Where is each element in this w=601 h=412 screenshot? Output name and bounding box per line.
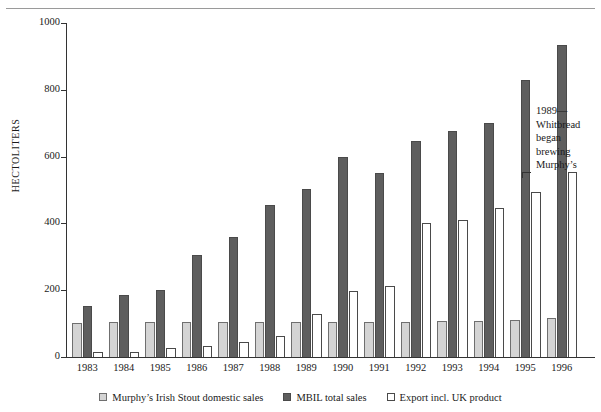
bar-group — [109, 23, 140, 357]
bar-domestic[interactable] — [109, 322, 119, 357]
bar-group — [182, 23, 213, 357]
bar-group — [291, 23, 322, 357]
bar-group — [328, 23, 359, 357]
bar-domestic[interactable] — [291, 322, 301, 357]
x-axis-tick-label: 1990 — [324, 362, 363, 373]
y-axis-tick — [61, 290, 66, 291]
chart-figure: 02004006008001000 HECTOLITERS 1983198419… — [0, 0, 601, 412]
x-axis-tick-label: 1991 — [360, 362, 399, 373]
bar-total[interactable] — [265, 205, 275, 357]
annotation-tick-icon — [522, 172, 531, 173]
y-axis-tick — [61, 23, 66, 24]
chart-legend: Murphy’s Irish Stout domestic salesMBIL … — [0, 388, 601, 406]
bar-group — [218, 23, 249, 357]
annotation-line-1: 1989— — [536, 104, 598, 118]
y-axis-tick-label: 400 — [26, 216, 60, 227]
bar-total[interactable] — [448, 131, 458, 357]
x-axis-tick-labels: 1983198419851986198719881989199019911992… — [66, 362, 566, 380]
bar-total[interactable] — [375, 173, 385, 357]
bar-domestic[interactable] — [364, 322, 374, 357]
bar-domestic[interactable] — [72, 323, 82, 357]
y-axis-tick-label: 200 — [26, 283, 60, 294]
bar-export[interactable] — [385, 286, 395, 357]
x-axis-tick-label: 1989 — [287, 362, 326, 373]
bar-export[interactable] — [203, 346, 213, 357]
bar-export[interactable] — [458, 220, 468, 357]
annotation-line-5: Murphy’s — [536, 158, 598, 172]
x-axis-tick-label: 1986 — [178, 362, 217, 373]
bar-domestic[interactable] — [547, 318, 557, 357]
bar-group — [547, 23, 578, 357]
y-axis-tick — [61, 223, 66, 224]
bar-export[interactable] — [495, 208, 505, 357]
whitbread-annotation: 1989— Whitbread began brewing Murphy’s — [536, 104, 598, 172]
bar-group — [401, 23, 432, 357]
bar-total[interactable] — [411, 141, 421, 357]
bar-export[interactable] — [130, 352, 140, 357]
bar-export[interactable] — [312, 314, 322, 357]
x-axis-tick-label: 1995 — [506, 362, 545, 373]
bar-group — [255, 23, 286, 357]
bar-domestic[interactable] — [474, 321, 484, 357]
bar-domestic[interactable] — [510, 320, 520, 357]
y-axis-title: HECTOLITERS — [10, 71, 21, 241]
x-axis-tick-label: 1994 — [470, 362, 509, 373]
bar-domestic[interactable] — [145, 322, 155, 357]
x-axis-tick-label: 1987 — [214, 362, 253, 373]
y-axis-tick-label: 800 — [26, 83, 60, 94]
bar-domestic[interactable] — [401, 322, 411, 357]
bar-export[interactable] — [568, 172, 578, 357]
bar-domestic[interactable] — [255, 322, 265, 357]
y-axis-tick — [61, 157, 66, 158]
legend-item[interactable]: MBIL total sales — [283, 392, 366, 403]
bar-total[interactable] — [192, 255, 202, 357]
y-axis-tick-labels: 02004006008001000 — [18, 0, 60, 412]
y-axis-tick-label: 0 — [26, 350, 60, 361]
legend-item-label: Export incl. UK product — [400, 392, 502, 403]
bar-domestic[interactable] — [328, 322, 338, 357]
bar-export[interactable] — [349, 291, 359, 357]
bar-total[interactable] — [156, 290, 166, 357]
bar-domestic[interactable] — [182, 322, 192, 357]
bar-export[interactable] — [93, 352, 103, 357]
bar-total[interactable] — [557, 45, 567, 357]
bar-total[interactable] — [521, 80, 531, 357]
x-axis-tick-label: 1985 — [141, 362, 180, 373]
bar-domestic[interactable] — [218, 322, 228, 357]
bar-export[interactable] — [276, 336, 286, 357]
y-axis-tick-label: 600 — [26, 150, 60, 161]
top-divider-rule — [6, 8, 595, 9]
x-axis-tick-label: 1988 — [251, 362, 290, 373]
bar-total[interactable] — [338, 157, 348, 357]
clipped-caption — [0, 0, 601, 3]
legend-item-label: MBIL total sales — [296, 392, 366, 403]
bar-group — [510, 23, 541, 357]
legend-swatch-icon — [283, 393, 291, 401]
bar-group — [72, 23, 103, 357]
bar-group — [437, 23, 468, 357]
bar-export[interactable] — [422, 223, 432, 357]
x-axis-line — [66, 357, 595, 358]
bar-total[interactable] — [119, 295, 129, 357]
bar-export[interactable] — [166, 348, 176, 357]
bar-export[interactable] — [239, 342, 249, 357]
legend-item[interactable]: Murphy’s Irish Stout domestic sales — [99, 392, 263, 403]
annotation-line-4: brewing — [536, 145, 598, 159]
bar-total[interactable] — [229, 237, 239, 357]
annotation-line-2: Whitbread — [536, 118, 598, 132]
y-axis-tick-label: 1000 — [26, 16, 60, 27]
legend-item[interactable]: Export incl. UK product — [387, 392, 502, 403]
bar-total[interactable] — [484, 123, 494, 357]
bar-domestic[interactable] — [437, 321, 447, 357]
legend-item-label: Murphy’s Irish Stout domestic sales — [112, 392, 263, 403]
legend-swatch-icon — [99, 393, 107, 401]
y-axis-tick — [61, 357, 66, 358]
bar-total[interactable] — [302, 189, 312, 357]
x-axis-tick-label: 1984 — [105, 362, 144, 373]
x-axis-tick-label: 1983 — [68, 362, 107, 373]
bar-export[interactable] — [531, 192, 541, 357]
x-axis-tick-label: 1993 — [433, 362, 472, 373]
annotation-tick-vertical-icon — [522, 172, 523, 178]
bar-total[interactable] — [83, 306, 93, 357]
y-axis-tick — [61, 90, 66, 91]
